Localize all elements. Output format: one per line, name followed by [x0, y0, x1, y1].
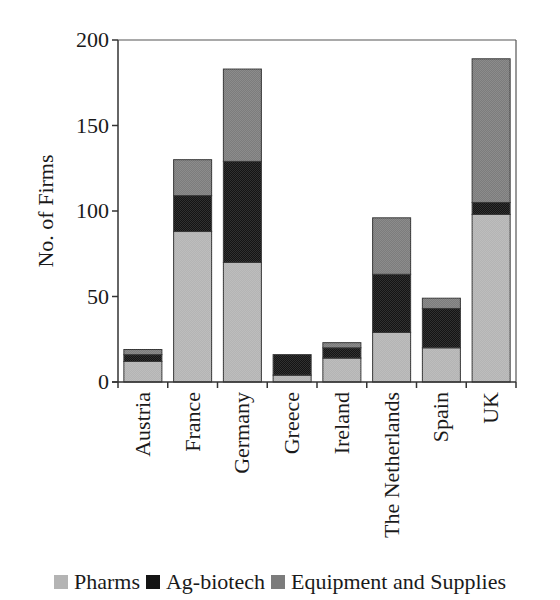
bar-stack-germany: [223, 69, 261, 382]
bar-texture: [223, 69, 261, 161]
legend-swatch-icon: [271, 575, 285, 589]
bar-texture: [323, 348, 361, 358]
bar-texture: [422, 298, 460, 308]
x-category-label: UK: [478, 392, 503, 424]
x-axis: AustriaFranceGermanyGreeceIrelandThe Net…: [112, 382, 516, 538]
bar-stack-ireland: [323, 343, 361, 382]
bar-texture: [373, 218, 411, 274]
bar-texture: [124, 361, 162, 382]
bar-texture: [273, 375, 311, 382]
bar-texture: [174, 232, 212, 382]
x-category-label: The Netherlands: [379, 392, 404, 538]
bar-texture: [472, 202, 510, 214]
legend-swatch-icon: [54, 575, 68, 589]
bar-texture: [323, 343, 361, 348]
bar-stack-uk: [472, 59, 510, 382]
y-tick-label: 50: [87, 284, 109, 309]
x-category-label: Greece: [279, 392, 304, 454]
x-category-label: Spain: [428, 392, 453, 442]
y-tick-label: 100: [76, 198, 109, 223]
legend-item-pharms: Pharms: [54, 569, 140, 595]
legend: PharmsAg-biotechEquipment and Supplies: [0, 567, 560, 597]
bar-stack-austria: [124, 350, 162, 382]
legend-item-ag-biotech: Ag-biotech: [146, 569, 265, 595]
x-category-label: Ireland: [329, 392, 354, 454]
y-axis-label: No. of Firms: [33, 154, 58, 267]
bar-texture: [323, 358, 361, 382]
bar-texture: [472, 214, 510, 382]
legend-item-equipment-and-supplies: Equipment and Supplies: [271, 569, 506, 595]
stacked-bar-chart: 050100150200 AustriaFranceGermanyGreeceI…: [0, 0, 560, 600]
bar-texture: [124, 350, 162, 355]
bar-stack-france: [174, 160, 212, 382]
bar-texture: [223, 262, 261, 382]
y-tick-label: 150: [76, 113, 109, 138]
y-tick-label: 0: [98, 369, 109, 394]
x-category-label: Germany: [229, 392, 254, 474]
bar-stack-spain: [422, 298, 460, 382]
bar-texture: [174, 160, 212, 196]
legend-label: Ag-biotech: [166, 569, 265, 595]
bar-texture: [373, 274, 411, 332]
bar-texture: [373, 332, 411, 382]
legend-swatch-icon: [146, 575, 160, 589]
bar-texture: [124, 355, 162, 362]
bar-texture: [223, 161, 261, 262]
bar-stack-greece: [273, 355, 311, 382]
legend-label: Pharms: [74, 569, 140, 595]
bar-stack-the-netherlands: [373, 218, 411, 382]
y-tick-label: 200: [76, 27, 109, 52]
x-category-label: Austria: [130, 392, 155, 457]
legend-label: Equipment and Supplies: [291, 569, 506, 595]
bar-texture: [472, 59, 510, 203]
bar-texture: [422, 348, 460, 382]
bar-texture: [273, 355, 311, 376]
bar-texture: [174, 196, 212, 232]
bars: [124, 59, 510, 382]
x-category-label: France: [180, 392, 205, 452]
bar-texture: [422, 308, 460, 347]
